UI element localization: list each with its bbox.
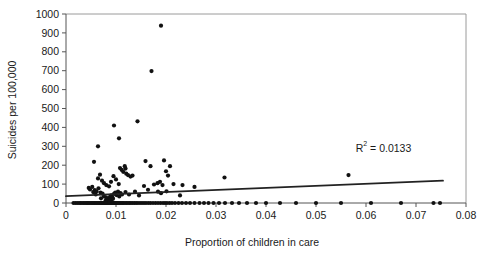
data-point [117,136,121,140]
x-tick-label: 0.06 [356,209,377,221]
y-tick-label: 500 [41,102,59,114]
data-point [223,201,227,205]
data-point [159,24,163,28]
x-tick-label: 0.04 [256,209,277,221]
data-point [112,123,116,127]
data-point [294,201,298,205]
scatter-plot-figure: 01002003004005006007008009001000 00.010.… [0,0,488,261]
y-axis-ticks: 01002003004005006007008009001000 [36,8,66,209]
data-point [217,201,221,205]
data-point [149,69,153,73]
data-point [142,184,146,188]
data-point [171,182,175,186]
x-axis-title: Proportion of children in care [185,236,319,248]
data-point [254,201,258,205]
x-tick-label: 0 [63,209,69,221]
data-point [222,175,226,179]
data-point [96,144,100,148]
y-tick-label: 1000 [36,8,60,20]
y-axis-title: Suicides per 100,000 [6,61,18,160]
data-point [135,119,139,123]
y-tick-label: 200 [41,159,59,171]
data-point [237,201,241,205]
data-point [188,201,192,205]
data-point [117,182,121,186]
data-point [99,196,103,200]
data-point [245,201,249,205]
data-point [148,164,152,168]
data-point [192,201,196,205]
data-point [96,186,100,190]
data-point [107,184,111,188]
data-point [399,201,403,205]
r-squared-label: R2 = 0.0133 [356,139,412,154]
data-point [143,159,147,163]
data-point [339,201,343,205]
y-tick-label: 900 [41,27,59,39]
data-point [87,186,91,190]
r-squared-annotation: R2 = 0.0133 [356,139,412,154]
x-tick-label: 0.05 [306,209,327,221]
data-point [369,201,373,205]
data-point [202,201,206,205]
x-tick-label: 0.07 [406,209,427,221]
y-tick-label: 800 [41,45,59,57]
trendline-segment [66,181,443,197]
data-point [180,183,184,187]
data-point [211,201,215,205]
y-tick-label: 100 [41,178,59,190]
data-point [109,180,113,184]
data-point [123,167,127,171]
data-point [184,201,188,205]
data-point [346,173,350,177]
x-tick-label: 0.08 [456,209,477,221]
data-point [146,188,150,192]
data-point [164,169,168,173]
x-tick-label: 0.03 [206,209,227,221]
data-point [178,193,182,197]
chart-canvas: 01002003004005006007008009001000 00.010.… [0,0,488,261]
data-point [92,160,96,164]
data-point [160,183,164,187]
data-point [278,201,282,205]
data-point [192,185,196,189]
data-point [431,201,435,205]
data-point [111,197,115,201]
y-tick-label: 0 [53,197,59,209]
data-point [230,201,234,205]
data-point [130,173,134,177]
data-point [314,201,318,205]
x-tick-label: 0.01 [106,209,127,221]
x-tick-label: 0.02 [156,209,177,221]
data-point [114,177,118,181]
y-tick-label: 300 [41,140,59,152]
y-tick-label: 400 [41,121,59,133]
data-point [197,201,201,205]
data-point [162,158,166,162]
data-point [438,201,442,205]
trendline [66,181,443,197]
data-point [166,173,170,177]
data-point [180,201,184,205]
scatter-points [71,24,442,205]
y-tick-label: 600 [41,83,59,95]
data-point [104,195,108,199]
data-point [264,201,268,205]
data-point [96,176,100,180]
x-axis-ticks: 00.010.020.030.040.050.060.070.08 [63,203,476,221]
data-point [206,201,210,205]
y-tick-label: 700 [41,64,59,76]
data-point [98,173,102,177]
data-point [168,164,172,168]
